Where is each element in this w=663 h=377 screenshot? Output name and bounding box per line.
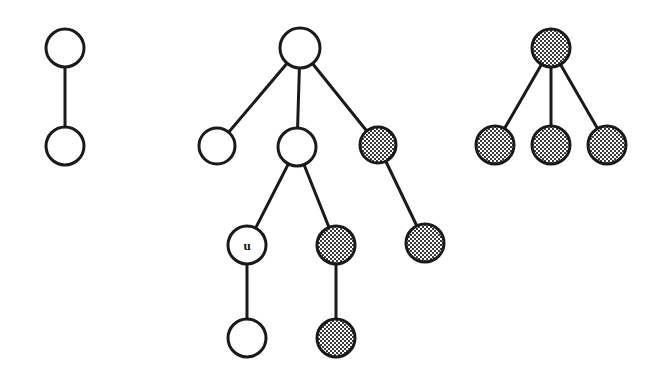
tree-node-white (46, 127, 84, 165)
tree-node-shaded (406, 224, 444, 262)
tree-node-white (46, 29, 84, 67)
tree-node-shaded (317, 226, 355, 264)
tree-node-shaded (532, 126, 570, 164)
tree-node-shaded (476, 126, 514, 164)
tree-node-shaded (317, 319, 355, 357)
tree-node-white (228, 319, 266, 357)
tree-diagram: u (0, 0, 663, 377)
tree-node-white (278, 128, 316, 166)
tree-node-white (199, 128, 235, 164)
tree-node-shaded (532, 29, 570, 67)
tree-node-shaded (588, 126, 626, 164)
node-label-u: u (243, 238, 250, 253)
figure-container: u (0, 0, 663, 377)
tree-node-shaded (360, 127, 396, 163)
tree-node-white (280, 28, 320, 68)
